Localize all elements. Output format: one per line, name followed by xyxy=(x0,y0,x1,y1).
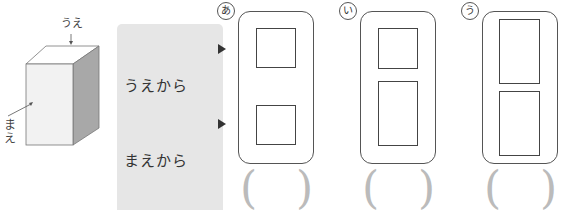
answer-paren-right-a: ) xyxy=(296,166,313,210)
top-view-rect-u xyxy=(499,19,540,84)
answer-paren-right-i: ) xyxy=(418,166,435,210)
choice-mark-a: あ xyxy=(217,2,235,20)
top-view-square-a xyxy=(256,28,296,68)
front-label-2: え xyxy=(4,129,16,146)
rectangular-prism-icon xyxy=(0,0,110,160)
front-view-line1: まえから xyxy=(124,149,216,173)
choice-mark-u: う xyxy=(461,2,479,20)
cube-illustration xyxy=(0,0,110,160)
top-view-square-i xyxy=(378,28,418,69)
triangle-right-icon xyxy=(218,119,226,129)
answer-field-a[interactable] xyxy=(255,172,295,206)
top-view-line1: うえから xyxy=(124,74,216,98)
front-view-square-a xyxy=(256,105,296,145)
front-view-label: まえから みた かたち xyxy=(117,99,223,210)
choice-mark-i: い xyxy=(339,2,357,20)
answer-field-i[interactable] xyxy=(377,172,417,206)
answer-field-u[interactable] xyxy=(499,172,539,206)
triangle-right-icon xyxy=(218,44,226,54)
front-view-rect-u xyxy=(499,91,540,156)
top-label: うえ xyxy=(61,14,83,30)
front-view-rect-i xyxy=(378,81,418,146)
answer-paren-right-u: ) xyxy=(540,166,557,210)
